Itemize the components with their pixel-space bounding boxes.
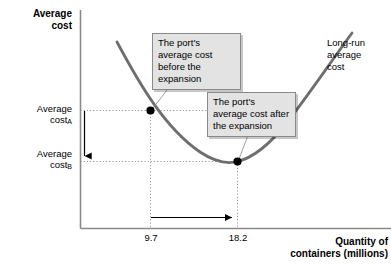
x-tick-label-97: 9.7 (131, 232, 171, 243)
curve-label-long-run-average-cost: Long-run average cost (327, 37, 389, 73)
callout-before-expansion: The port's average cost before the expan… (152, 33, 241, 90)
y-tick-label-cost-b-sub: B (67, 163, 72, 170)
y-tick-label-cost-a: Average costA (4, 103, 72, 126)
data-point-b (233, 157, 241, 165)
x-tick-label-182: 18.2 (218, 232, 258, 243)
data-point-a (146, 106, 154, 114)
x-axis-title: Quantity of containers (millions) (258, 236, 388, 259)
callout-after-expansion: The port's average cost after the expans… (207, 92, 296, 137)
y-tick-label-cost-b: Average costB (4, 148, 72, 171)
y-axis-title: Average cost (6, 8, 72, 31)
y-tick-label-cost-a-sub: A (67, 118, 72, 125)
chart-figure: Average cost Quantity of containers (mil… (0, 0, 391, 273)
